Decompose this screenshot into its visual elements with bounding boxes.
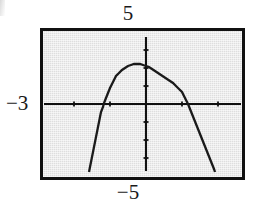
- figure-container: 5 −3: [0, 0, 256, 209]
- window-label-xmin: −3: [6, 93, 38, 114]
- window-label-ymin: −5: [0, 182, 256, 203]
- graph-plot: [43, 31, 242, 177]
- curve-trace: [89, 64, 215, 172]
- window-label-ymax: 5: [0, 3, 256, 24]
- calculator-screen: [40, 28, 245, 180]
